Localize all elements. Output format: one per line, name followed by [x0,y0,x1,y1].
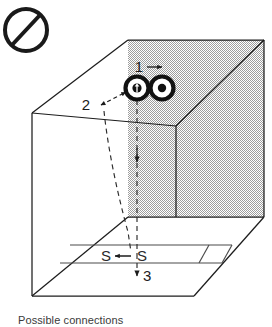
connector-right-dot-icon [158,84,166,92]
label-slot-left: S [101,247,111,264]
figure-caption: Possible connections [18,314,123,326]
label-slot-right: S [137,247,147,264]
diagram-canvas: 1 2 3 S S [0,0,272,327]
label-route-1: 1 [135,58,143,75]
label-route-3: 3 [143,267,151,284]
label-route-2: 2 [82,96,90,113]
connector-left [126,77,149,100]
technical-diagram: 1 2 3 S S [0,0,272,327]
no-entry-symbol [5,9,47,51]
connector-right [151,77,174,100]
